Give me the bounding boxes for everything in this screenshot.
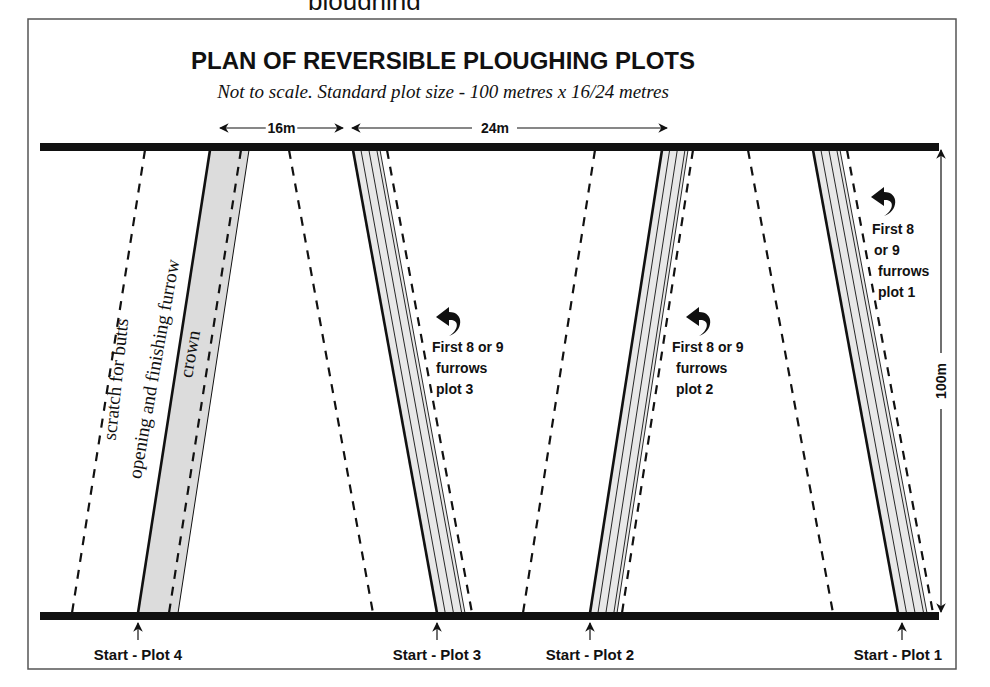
note-line: furrows	[436, 360, 488, 376]
ploughing-plot-diagram: PLAN OF REVERSIBLE PLOUGHING PLOTS Not t…	[0, 0, 990, 687]
dimension-100m-label: 100m	[933, 363, 949, 399]
note-line: First 8 or 9	[672, 339, 744, 355]
plot-4-start-label: Start - Plot 4	[94, 646, 183, 663]
note-line: furrows	[676, 360, 728, 376]
plot-1-start-label: Start - Plot 1	[854, 646, 942, 663]
plot-2-start-label: Start - Plot 2	[546, 646, 634, 663]
note-line: plot 3	[436, 381, 474, 397]
note-line: or 9	[874, 242, 900, 258]
diagram-title: PLAN OF REVERSIBLE PLOUGHING PLOTS	[191, 47, 695, 74]
headland-bottom-bar	[40, 612, 939, 620]
note-line: First 8 or 9	[432, 339, 504, 355]
note-line: plot 1	[878, 284, 916, 300]
dimension-16m-label: 16m	[267, 120, 295, 136]
plot-3-start-label: Start - Plot 3	[393, 646, 481, 663]
note-line: First 8	[872, 221, 914, 237]
note-line: plot 2	[676, 381, 714, 397]
headland-top-bar	[40, 143, 939, 151]
diagram-subtitle: Not to scale. Standard plot size - 100 m…	[216, 81, 669, 102]
dimension-24m-label: 24m	[481, 120, 509, 136]
note-line: furrows	[878, 263, 930, 279]
